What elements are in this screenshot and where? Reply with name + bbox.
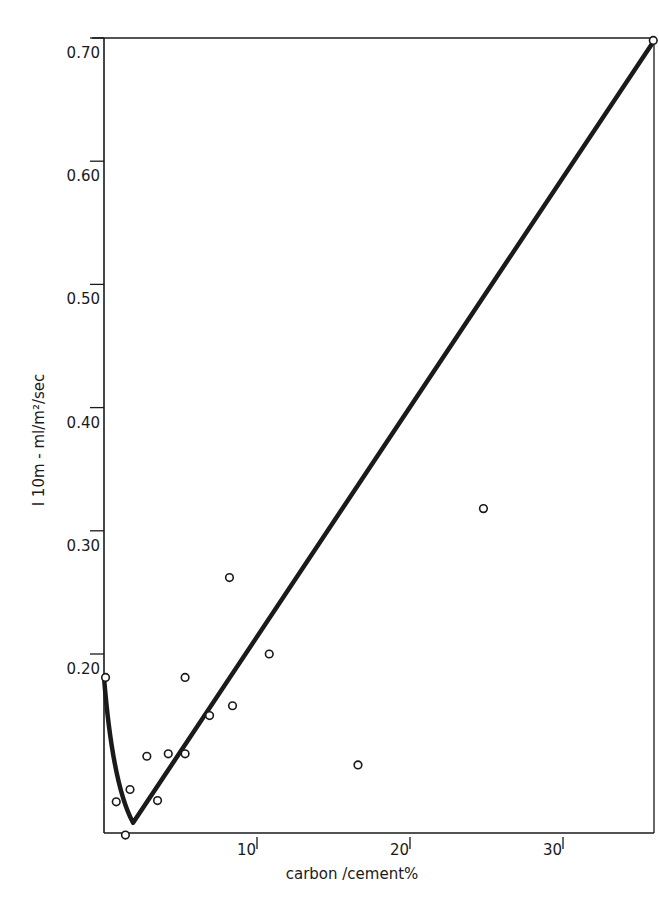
y-tick-label: 0.20	[67, 660, 100, 678]
data-point	[102, 674, 110, 682]
y-tick-label: 0.70	[67, 44, 100, 62]
y-axis-title: I 10m - ml/m²/sec	[30, 374, 48, 507]
y-tick-label: 0.50	[67, 290, 100, 308]
data-point	[649, 37, 657, 45]
data-point	[112, 798, 120, 806]
x-tick-label: 20	[390, 841, 409, 859]
data-point	[181, 674, 189, 682]
data-point	[226, 574, 234, 582]
data-point	[229, 702, 237, 710]
plot-frame	[92, 38, 654, 833]
data-point	[143, 752, 151, 760]
data-point	[265, 650, 273, 658]
data-point	[480, 505, 488, 513]
x-axis-title: carbon /cement%	[286, 865, 419, 883]
y-axis-ticks: 0.200.300.400.500.600.70	[67, 38, 104, 678]
fitted-line	[104, 44, 652, 823]
x-tick-label: 30	[543, 841, 562, 859]
y-tick-label: 0.40	[67, 414, 100, 432]
x-tick-label: 10	[237, 841, 256, 859]
data-point	[122, 831, 130, 839]
y-tick-label: 0.60	[67, 167, 100, 185]
data-point	[206, 712, 214, 720]
fitted-curve	[104, 44, 652, 823]
data-point	[154, 797, 162, 805]
x-axis-ticks: 102030	[237, 837, 563, 859]
data-point	[354, 761, 362, 769]
chart-canvas: 0.200.300.400.500.600.70 102030 I 10m - …	[0, 0, 659, 913]
y-tick-label: 0.30	[67, 537, 100, 555]
data-points	[102, 37, 657, 839]
data-point	[126, 786, 134, 794]
data-point	[181, 750, 189, 758]
data-point	[164, 750, 172, 758]
